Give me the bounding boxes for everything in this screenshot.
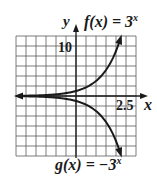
y-axis-label: y: [63, 13, 70, 30]
y-axis-arrow-icon: [73, 24, 79, 32]
g-label: g(x) = −3x: [55, 155, 121, 174]
x-axis-label: x: [144, 96, 152, 114]
curve-g: [18, 96, 120, 152]
f-label-exponent: x: [133, 12, 138, 23]
tick-label-10: 10: [58, 40, 72, 56]
g-label-text: g(x) = −3: [55, 156, 116, 173]
f-label-text: f(x) = 3: [84, 13, 133, 30]
curve-left-arrow-icon: [14, 93, 23, 100]
f-label: f(x) = 3x: [84, 12, 138, 31]
tick-label-2-5: 2.5: [116, 98, 134, 114]
g-label-exponent: x: [116, 155, 121, 166]
